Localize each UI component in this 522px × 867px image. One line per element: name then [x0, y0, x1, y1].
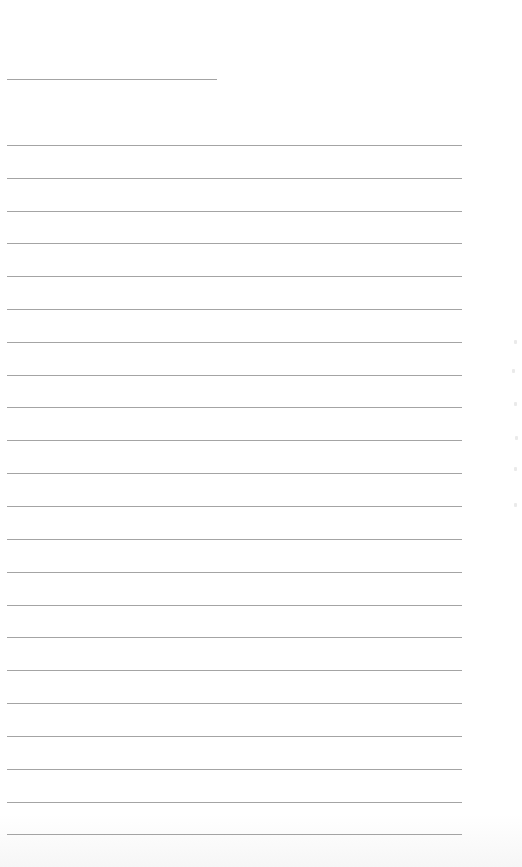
ruled-line [7, 670, 462, 671]
ruled-line [7, 211, 462, 212]
ruled-line [7, 473, 462, 474]
bleed-through-mark [514, 402, 517, 406]
ruled-line [7, 769, 462, 770]
ruled-line [7, 243, 462, 244]
ruled-line [7, 440, 462, 441]
bleed-through-mark [514, 340, 517, 344]
ruled-line [7, 802, 462, 803]
ruled-line [7, 703, 462, 704]
ruled-line [7, 506, 462, 507]
bleed-through-mark [512, 369, 515, 373]
ruled-line [7, 637, 462, 638]
ruled-line [7, 342, 462, 343]
ruled-lines [0, 0, 522, 867]
ruled-line [7, 145, 462, 146]
bleed-through-mark [515, 436, 518, 440]
ruled-line [7, 375, 462, 376]
ruled-line [7, 407, 462, 408]
ruled-line [7, 178, 462, 179]
bleed-through-mark [514, 467, 517, 471]
ruled-line [7, 572, 462, 573]
ruled-line [7, 539, 462, 540]
lined-page [0, 0, 522, 867]
ruled-line [7, 736, 462, 737]
bleed-through-mark [514, 503, 517, 507]
ruled-line [7, 834, 462, 835]
ruled-line [7, 309, 462, 310]
ruled-line [7, 605, 462, 606]
ruled-line [7, 276, 462, 277]
